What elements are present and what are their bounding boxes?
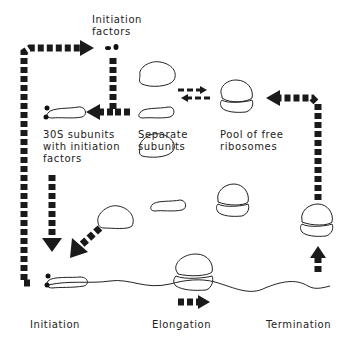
large-subunit-approach	[98, 206, 133, 229]
pool-ribosome-small	[221, 100, 253, 112]
factors-to-30s-arrow	[100, 58, 113, 112]
diagram-graphics	[0, 0, 359, 341]
arrowhead-right-factors	[80, 40, 94, 56]
arrowhead-left-30s	[86, 104, 100, 120]
term-ribosome-small	[301, 224, 333, 236]
arrowhead-association	[181, 94, 188, 102]
arrowhead-dissociation	[200, 86, 207, 94]
arrowhead-termination-up	[310, 246, 326, 258]
recycle-to-pool-arrow	[280, 98, 318, 200]
arrowhead-pool-left	[266, 90, 280, 106]
ribosome-cycle-diagram: Initiation factors 30S subunits with ini…	[0, 0, 359, 341]
label-initiation: Initiation	[30, 319, 80, 331]
pool-ribosome-large	[221, 80, 252, 102]
small-subunit-with-factors	[47, 107, 85, 118]
elongation-ribosome-large	[176, 254, 213, 276]
small-subunit-separate	[139, 107, 174, 118]
large-subunit-to-initiation-arrow	[80, 228, 100, 246]
term-ribosome-large	[302, 204, 333, 225]
label-separate-subunits: Separate subunits	[138, 129, 188, 153]
label-initiation-factors: Initiation factors	[92, 14, 142, 38]
arrowhead-down-initiation	[42, 238, 62, 252]
mid-ribosome-large	[218, 184, 249, 205]
label-pool-free-ribosomes: Pool of free ribosomes	[220, 129, 284, 153]
arrowhead-elongation	[198, 295, 210, 309]
small-subunit-mid	[151, 200, 186, 211]
label-elongation: Elongation	[152, 319, 211, 331]
mid-ribosome-small	[217, 204, 249, 216]
label-termination: Termination	[266, 319, 331, 331]
label-30s-subunits: 30S subunits with initiation factors	[43, 129, 120, 165]
elongation-ribosome-small	[174, 276, 213, 290]
large-subunit-separate	[140, 62, 176, 87]
